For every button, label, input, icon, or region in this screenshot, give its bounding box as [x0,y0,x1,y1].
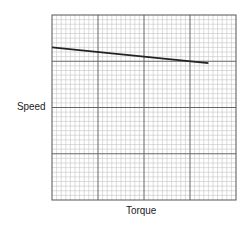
speed-torque-chart [0,0,244,228]
x-axis-label: Torque [126,204,156,216]
y-axis-label: Speed [17,100,46,112]
